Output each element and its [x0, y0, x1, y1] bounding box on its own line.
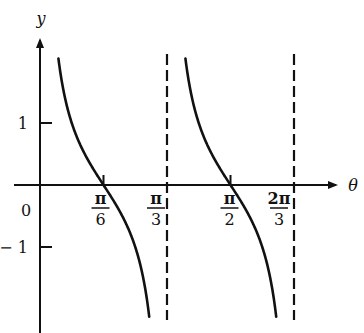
svg-text:6: 6: [95, 210, 105, 229]
y-tick-label: − 1: [0, 238, 28, 257]
svg-text:3: 3: [151, 210, 161, 229]
x-tick-label: 2π3: [268, 189, 291, 229]
x-tick-label: π6: [92, 189, 110, 229]
svg-text:2: 2: [224, 210, 234, 229]
curve-branch: [185, 58, 276, 316]
x-axis-label: θ: [348, 176, 358, 195]
origin-label: 0: [21, 201, 31, 220]
svg-text:2π: 2π: [268, 189, 291, 208]
svg-text:π: π: [150, 189, 162, 208]
y-tick-label: 1: [18, 114, 28, 133]
x-tick-label: π3: [147, 189, 165, 229]
svg-text:3: 3: [274, 210, 284, 229]
svg-text:π: π: [95, 189, 107, 208]
x-ticks: π6π3π22π3: [92, 175, 291, 229]
cotangent-chart: y θ 0 1− 1 π6π3π22π3: [0, 0, 364, 333]
y-axis-label: y: [35, 9, 46, 28]
curve-branch: [58, 58, 149, 316]
